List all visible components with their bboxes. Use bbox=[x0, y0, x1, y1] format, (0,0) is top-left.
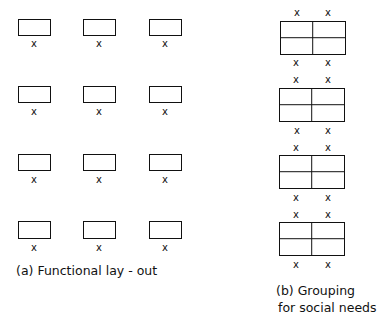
desk bbox=[18, 19, 51, 36]
desk bbox=[18, 86, 51, 103]
desk bbox=[83, 19, 116, 36]
person-mark: x bbox=[291, 210, 301, 220]
desk bbox=[149, 154, 182, 171]
person-mark: x bbox=[291, 143, 301, 153]
person-mark: x bbox=[160, 107, 170, 117]
person-mark: x bbox=[323, 58, 333, 68]
desk bbox=[18, 221, 51, 239]
caption-b-line2: for social needs bbox=[278, 300, 377, 315]
desk-cluster bbox=[279, 88, 345, 122]
desk-cluster bbox=[280, 21, 346, 55]
desk-cluster bbox=[279, 155, 345, 189]
person-mark: x bbox=[323, 143, 333, 153]
person-mark: x bbox=[291, 193, 301, 203]
person-mark: x bbox=[291, 75, 301, 85]
desk bbox=[149, 86, 182, 103]
person-mark: x bbox=[29, 107, 39, 117]
desk bbox=[18, 154, 51, 171]
person-mark: x bbox=[29, 175, 39, 185]
person-mark: x bbox=[292, 8, 302, 18]
person-mark: x bbox=[292, 126, 302, 136]
desk-cluster bbox=[279, 222, 345, 256]
person-mark: x bbox=[323, 210, 333, 220]
person-mark: x bbox=[323, 126, 333, 136]
person-mark: x bbox=[94, 107, 104, 117]
person-mark: x bbox=[323, 193, 333, 203]
person-mark: x bbox=[160, 39, 170, 49]
person-mark: x bbox=[323, 8, 333, 18]
caption-b-line1: (b) Grouping bbox=[276, 283, 355, 298]
person-mark: x bbox=[29, 243, 39, 253]
person-mark: x bbox=[291, 58, 301, 68]
person-mark: x bbox=[29, 39, 39, 49]
person-mark: x bbox=[160, 243, 170, 253]
desk bbox=[83, 221, 116, 239]
person-mark: x bbox=[94, 175, 104, 185]
person-mark: x bbox=[160, 175, 170, 185]
desk bbox=[149, 221, 182, 239]
desk bbox=[149, 19, 182, 36]
caption-a: (a) Functional lay - out bbox=[16, 263, 157, 278]
person-mark: x bbox=[323, 260, 333, 270]
person-mark: x bbox=[94, 243, 104, 253]
desk bbox=[83, 86, 116, 103]
person-mark: x bbox=[94, 39, 104, 49]
desk bbox=[83, 154, 116, 171]
person-mark: x bbox=[323, 75, 333, 85]
person-mark: x bbox=[291, 260, 301, 270]
